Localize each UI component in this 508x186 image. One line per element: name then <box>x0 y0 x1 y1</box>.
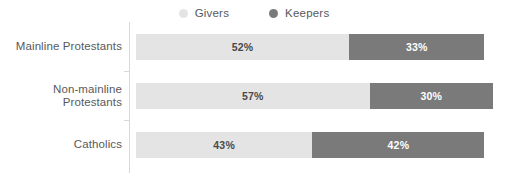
bar-row: Mainline Protestants 52% 33% <box>0 22 508 71</box>
bar-value-label: 33% <box>406 41 428 53</box>
bar-segment-givers[interactable]: 43% <box>136 132 312 158</box>
plot-area: Mainline Protestants 52% 33% Non-mainlin… <box>0 22 508 174</box>
legend-dot-givers-icon <box>179 9 188 18</box>
category-label-line1: Mainline Protestants <box>16 40 122 52</box>
bar-segment-keepers[interactable]: 33% <box>349 34 484 60</box>
legend-label-keepers: Keepers <box>285 7 329 19</box>
stacked-bar: 43% 42% <box>136 132 484 158</box>
legend-item-keepers[interactable]: Keepers <box>269 7 329 19</box>
bar-row: Catholics 43% 42% <box>0 120 508 169</box>
legend-item-givers[interactable]: Givers <box>179 7 229 19</box>
chart-legend: Givers Keepers <box>0 4 508 22</box>
bar-value-label: 43% <box>213 139 235 151</box>
bar-segment-keepers[interactable]: 42% <box>312 132 484 158</box>
bar-segment-givers[interactable]: 52% <box>136 34 349 60</box>
bar-segment-givers[interactable]: 57% <box>136 83 370 109</box>
legend-label-givers: Givers <box>195 7 229 19</box>
category-label: Mainline Protestants <box>4 40 122 54</box>
bar-value-label: 42% <box>388 139 410 151</box>
bar-segment-keepers[interactable]: 30% <box>370 83 493 109</box>
bar-value-label: 52% <box>232 41 254 53</box>
category-label: Non-mainline Protestants <box>4 82 122 109</box>
stacked-bar-chart: Givers Keepers Mainline Protestants 52% … <box>0 0 508 186</box>
bar-value-label: 30% <box>420 90 442 102</box>
bar-row: Non-mainline Protestants 57% 30% <box>0 71 508 120</box>
bar-value-label: 57% <box>242 90 264 102</box>
category-label-line2: Protestants <box>63 96 122 108</box>
category-label-line1: Catholics <box>74 138 122 150</box>
stacked-bar: 57% 30% <box>136 83 493 109</box>
legend-dot-keepers-icon <box>269 9 278 18</box>
category-label: Catholics <box>4 138 122 152</box>
category-label-line1: Non-mainline <box>53 82 122 94</box>
stacked-bar: 52% 33% <box>136 34 484 60</box>
